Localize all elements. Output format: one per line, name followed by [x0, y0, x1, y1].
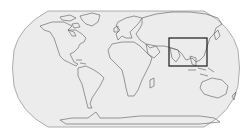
world-map: [0, 0, 252, 133]
map-frame: [13, 11, 240, 127]
world-map-svg: [0, 0, 252, 133]
